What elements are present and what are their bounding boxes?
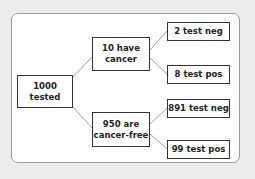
node-cancer-test-pos: 8 test pos bbox=[167, 65, 230, 84]
node-free-test-neg: 891 test neg bbox=[167, 99, 230, 118]
link-free-pos bbox=[150, 134, 167, 149]
node-root: 1000 tested bbox=[17, 75, 73, 108]
link-root-cancer bbox=[72, 57, 92, 78]
node-cancer-test-neg: 2 test neg bbox=[167, 22, 230, 41]
node-cancer-test-neg-label: 2 test neg bbox=[174, 26, 223, 37]
link-free-neg bbox=[150, 108, 167, 124]
node-cancer-free-label: 950 are cancer-free bbox=[94, 119, 149, 141]
node-cancer-free: 950 are cancer-free bbox=[92, 112, 150, 147]
node-cancer: 10 have cancer bbox=[92, 37, 150, 71]
link-cancer-neg bbox=[150, 31, 167, 50]
node-cancer-label: 10 have cancer bbox=[102, 43, 140, 65]
node-root-label: 1000 tested bbox=[30, 81, 61, 103]
node-cancer-test-pos-label: 8 test pos bbox=[175, 69, 223, 80]
link-cancer-pos bbox=[150, 58, 167, 74]
node-free-test-neg-label: 891 test neg bbox=[168, 103, 229, 114]
node-free-test-pos: 99 test pos bbox=[167, 140, 230, 159]
node-free-test-pos-label: 99 test pos bbox=[172, 144, 226, 155]
link-root-free bbox=[72, 106, 92, 128]
